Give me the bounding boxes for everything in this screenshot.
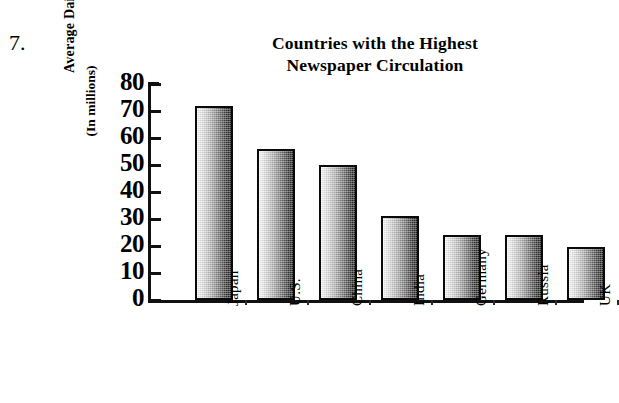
x-axis-minor-tick [245, 300, 247, 305]
x-axis-minor-tick [431, 300, 433, 305]
x-axis-tick-label-text: U.S. [287, 278, 304, 306]
x-axis-minor-tick [493, 300, 495, 305]
x-axis-minor-tick [369, 300, 371, 305]
chart-title: Countries with the Highest Newspaper Cir… [205, 32, 545, 76]
x-axis-tick-label-text: Japan [225, 270, 242, 306]
x-axis-tick-label-text: Germany [473, 248, 490, 306]
y-axis-tick-label: 50 [96, 150, 144, 175]
y-axis-tick-label: 10 [96, 258, 144, 283]
chart-title-line-2: Newspaper Circulation [205, 54, 545, 76]
x-axis-minor-tick [307, 300, 309, 305]
x-axis-tick-label-text: India [411, 274, 428, 306]
x-axis-tick-label: Japan [222, 202, 244, 306]
x-axis-tick-label: U.S. [284, 202, 306, 306]
x-axis-tick-label: China [346, 202, 368, 306]
y-axis-tick-label: 70 [96, 96, 144, 121]
y-axis-title-main: Average Daily Circulation [62, 0, 78, 73]
x-axis-tick-label-text: Russia [535, 264, 552, 306]
y-axis-tick-label: 30 [96, 204, 144, 229]
x-axis-minor-tick [555, 300, 557, 305]
chart-title-line-1: Countries with the Highest [205, 32, 545, 54]
x-axis-tick-label-text: China [349, 269, 366, 306]
y-axis-tick-label: 40 [96, 177, 144, 202]
x-axis-tick-label-text: UK [597, 284, 614, 306]
y-axis-tick-label: 60 [96, 123, 144, 148]
x-axis-tick-label: Russia [532, 202, 554, 306]
x-axis-tick-label: India [408, 202, 430, 306]
x-axis-tick-label: Germany [470, 202, 492, 306]
x-axis-tick-label: UK [594, 202, 616, 306]
y-axis-tick-label: 20 [96, 231, 144, 256]
y-axis-tick-label: 0 [96, 285, 144, 310]
y-axis-tick-label: 80 [96, 69, 144, 94]
